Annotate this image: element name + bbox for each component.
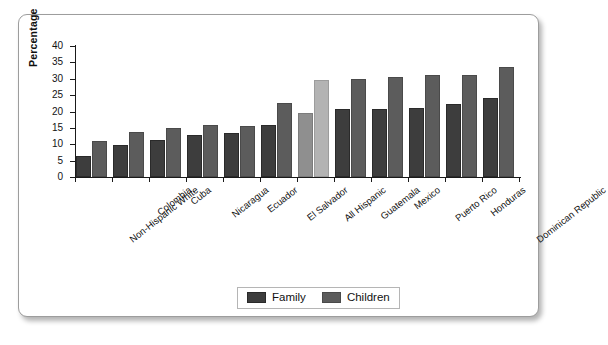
y-tick-label: 0 <box>57 172 63 182</box>
bar-children <box>129 132 144 177</box>
bar-group <box>408 46 445 177</box>
x-axis-line <box>75 177 521 178</box>
bar-children <box>351 79 366 177</box>
bar-group <box>186 46 223 177</box>
x-tick <box>371 177 372 182</box>
y-tick-label: 35 <box>52 57 63 67</box>
legend-swatch-family <box>247 292 266 303</box>
x-tick <box>112 177 113 182</box>
bar-children <box>203 125 218 177</box>
x-tick <box>519 177 520 182</box>
legend-label-children: Children <box>347 292 390 304</box>
x-tick <box>149 177 150 182</box>
bar-family <box>113 145 128 177</box>
bar-group <box>260 46 297 177</box>
bar-family <box>224 133 239 177</box>
bar-family <box>150 140 165 177</box>
chart-legend: Family Children <box>237 287 400 309</box>
bar-family <box>446 104 461 177</box>
bar-group <box>223 46 260 177</box>
x-tick <box>334 177 335 182</box>
y-tick-label: 10 <box>52 139 63 149</box>
category-label: Nicaragua <box>230 185 270 219</box>
bar-family <box>76 156 91 177</box>
legend-item-children: Children <box>322 292 390 304</box>
bar-group <box>112 46 149 177</box>
x-tick <box>223 177 224 182</box>
bar-children <box>499 67 514 177</box>
bar-group <box>334 46 371 177</box>
bar-family <box>298 113 313 177</box>
y-axis-title: Percentage <box>27 8 39 67</box>
y-tick-label: 40 <box>52 41 63 51</box>
x-tick <box>445 177 446 182</box>
bar-group <box>482 46 519 177</box>
x-tick <box>75 177 76 182</box>
bar-children <box>314 80 329 177</box>
bar-family <box>483 98 498 177</box>
x-tick <box>260 177 261 182</box>
category-label: Puerto Rico <box>454 185 499 223</box>
category-label: Dominican Republic <box>535 185 607 244</box>
bar-group <box>297 46 334 177</box>
y-tick-label: 30 <box>52 74 63 84</box>
bar-children <box>388 77 403 177</box>
y-tick-label: 25 <box>52 90 63 100</box>
bar-group <box>445 46 482 177</box>
bar-family <box>372 109 387 177</box>
bar-children <box>240 126 255 177</box>
category-label: Ecuador <box>266 185 300 214</box>
legend-label-family: Family <box>272 292 306 304</box>
bar-group <box>149 46 186 177</box>
bar-children <box>425 75 440 177</box>
bar-children <box>92 141 107 177</box>
bar-family <box>261 125 276 177</box>
bar-group <box>75 46 112 177</box>
bar-group <box>371 46 408 177</box>
bar-family <box>335 109 350 177</box>
legend-swatch-children <box>322 292 341 303</box>
x-tick <box>408 177 409 182</box>
y-tick-label: 15 <box>52 123 63 133</box>
y-tick-label: 5 <box>57 156 63 166</box>
bar-family <box>187 135 202 177</box>
bar-children <box>462 75 477 177</box>
x-tick <box>297 177 298 182</box>
bar-children <box>166 128 181 177</box>
legend-item-family: Family <box>247 292 306 304</box>
bar-children <box>277 103 292 177</box>
chart-card: Percentage 0510152025303540 Non-Hispanic… <box>18 14 539 317</box>
bar-family <box>409 108 424 177</box>
y-tick-label: 20 <box>52 107 63 117</box>
x-tick <box>482 177 483 182</box>
x-tick <box>186 177 187 182</box>
plot-area: 0510152025303540 <box>75 46 519 177</box>
